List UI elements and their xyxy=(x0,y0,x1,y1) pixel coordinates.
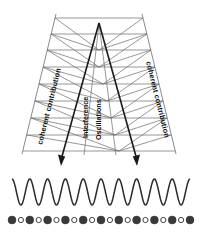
lattice-site-filled xyxy=(168,216,176,224)
label-interference: Interference xyxy=(81,97,90,138)
lattice-site-filled xyxy=(150,216,158,224)
label-right-coherent-contribution: coherent contribution xyxy=(144,60,172,139)
lattice-site-filled xyxy=(61,216,69,224)
lattice-site-filled xyxy=(186,216,194,224)
lattice-site-filled xyxy=(97,216,105,224)
lattice-site-hollow xyxy=(54,217,59,222)
sine-wave xyxy=(12,179,190,205)
lattice-site-hollow xyxy=(125,217,130,222)
lattice-site-hollow xyxy=(90,217,95,222)
down-left-ray-arrow xyxy=(58,155,65,167)
lattice-site-hollow xyxy=(143,217,148,222)
down-right-ray-arrow xyxy=(133,155,140,167)
lattice-site-hollow xyxy=(161,217,166,222)
label-oscillations: Oscillations xyxy=(94,99,103,140)
lattice-site-hollow xyxy=(179,217,184,222)
interference-diagram: coherent contribution coherent contribut… xyxy=(0,0,199,236)
lattice-site-hollow xyxy=(36,217,41,222)
lattice-site-filled xyxy=(44,216,52,224)
lattice-site-filled xyxy=(133,216,141,224)
lattice-site-filled xyxy=(79,216,87,224)
lattice-site-filled xyxy=(115,216,123,224)
lattice-site-hollow xyxy=(18,217,23,222)
lattice-site-hollow xyxy=(72,217,77,222)
lattice-site-hollow xyxy=(107,217,112,222)
lattice-site-filled xyxy=(8,216,16,224)
lattice-site-filled xyxy=(26,216,34,224)
dot-row xyxy=(8,216,194,224)
wave-group xyxy=(12,179,190,205)
